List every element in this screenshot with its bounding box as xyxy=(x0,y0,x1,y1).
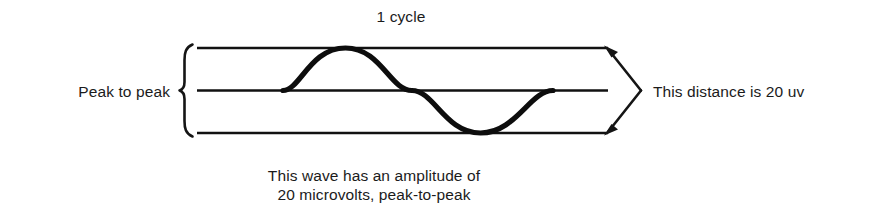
caption-line-1: This wave has an amplitude of xyxy=(0,166,748,185)
figure-caption: This wave has an amplitude of 20 microvo… xyxy=(0,166,748,204)
cycle-label: 1 cycle xyxy=(0,8,802,26)
peak-to-peak-label: Peak to peak xyxy=(0,83,170,101)
double-headed-arrow-icon xyxy=(604,46,641,136)
left-curly-brace-icon xyxy=(180,45,193,137)
arrow-head-down xyxy=(604,124,618,136)
waveform-figure: 1 cycle Peak to peak This distance is 20… xyxy=(0,0,885,223)
caption-line-2: 20 microvolts, peak-to-peak xyxy=(0,185,748,204)
arrow-head-up xyxy=(604,46,618,58)
distance-label: This distance is 20 uv xyxy=(653,83,804,101)
